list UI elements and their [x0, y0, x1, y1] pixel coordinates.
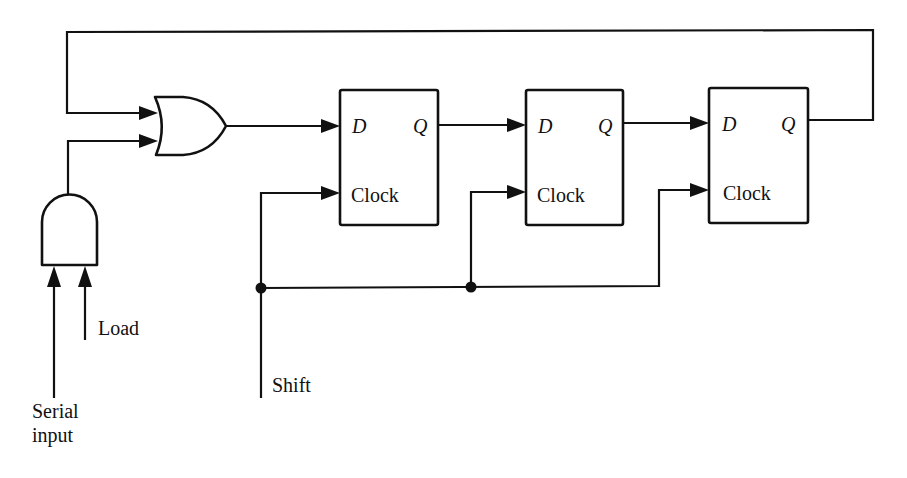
ff3-d-arrow-icon [690, 116, 709, 130]
or-input1-arrow-icon [139, 106, 158, 120]
shift-register-diagram: Load Serial input D Q Clock D Q Clock D … [0, 0, 907, 478]
ff1-d-arrow-icon [321, 119, 340, 133]
ff2-d-pin: D [537, 115, 553, 137]
ff3-d-pin: D [721, 113, 737, 135]
ff1-clock-pin: Clock [351, 184, 399, 206]
ff3-q-pin: Q [781, 113, 796, 135]
ff2-clock-pin: Clock [537, 184, 585, 206]
ff2-clock-branch [471, 192, 516, 287]
ff3-clock-pin: Clock [723, 182, 771, 204]
shift-wire [261, 193, 330, 398]
or-input2-arrow-icon [139, 134, 158, 148]
ff1-clock-arrow-icon [321, 186, 340, 200]
junction-dot-1 [256, 283, 267, 294]
shift-label: Shift [272, 374, 311, 396]
serial-input-label-line1: Serial [32, 400, 79, 422]
or-gate [155, 97, 226, 155]
ff1-q-pin: Q [413, 115, 428, 137]
and-gate [42, 195, 97, 266]
serial-input-arrow-icon [47, 266, 61, 287]
ff3-clock-arrow-icon [690, 183, 709, 197]
serial-input-label-line2: input [32, 424, 74, 447]
ff2-d-arrow-icon [507, 118, 526, 132]
load-arrow-icon [78, 266, 92, 287]
load-label: Load [98, 317, 139, 339]
and-to-or-wire [68, 141, 148, 195]
junction-dot-2 [466, 282, 477, 293]
ff1-d-pin: D [351, 115, 367, 137]
ff2-q-pin: Q [598, 115, 613, 137]
ff2-clock-arrow-icon [507, 185, 526, 199]
clock-bus [261, 190, 699, 288]
